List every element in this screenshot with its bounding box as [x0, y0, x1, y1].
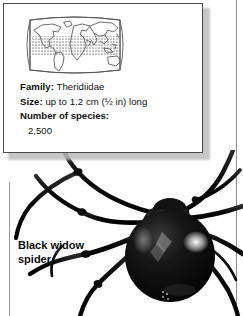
fact-size: Size: up to 1.2 cm (½ in) long: [20, 95, 200, 110]
fact-species-value: 2,500: [20, 124, 200, 139]
page-root: Family: Theridiidae Size: up to 1.2 cm (…: [0, 0, 243, 316]
fact-size-value: up to 1.2 cm (½ in) long: [45, 96, 147, 107]
figure-caption-line2: spider: [18, 252, 128, 266]
figure-caption-line1: Black widow: [18, 238, 128, 252]
fact-family-value: Theridiidae: [56, 81, 104, 92]
fact-species-label: Number of species:: [20, 109, 200, 124]
world-map-distribution-icon: [20, 14, 130, 76]
fact-family-label: Family:: [20, 81, 54, 92]
facts-list: Family: Theridiidae Size: up to 1.2 cm (…: [20, 80, 200, 138]
figure-caption: Black widow spider: [18, 238, 128, 266]
black-widow-spider-illustration: [0, 150, 243, 316]
fact-size-label: Size:: [20, 96, 43, 107]
info-card: Family: Theridiidae Size: up to 1.2 cm (…: [3, 3, 203, 153]
fact-family: Family: Theridiidae: [20, 80, 200, 95]
